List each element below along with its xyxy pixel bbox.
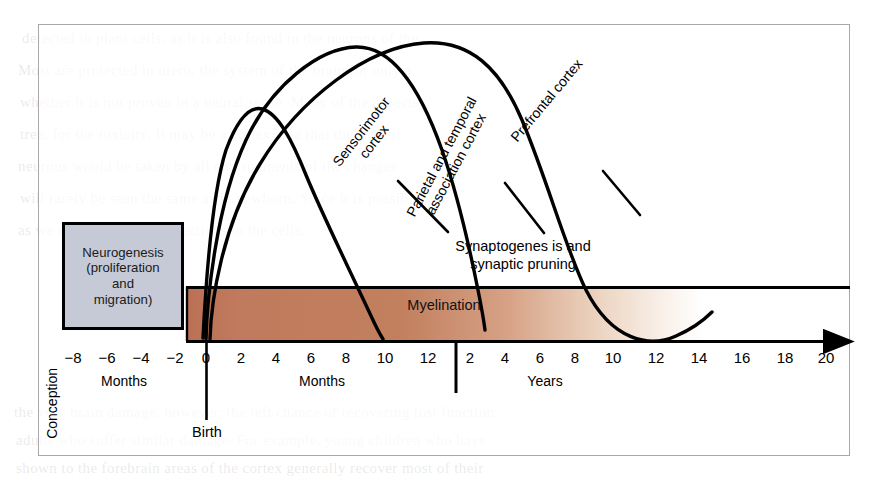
- synaptogenesis-caption-line2: synaptic pruning: [418, 256, 628, 274]
- tick-year-20: 20: [818, 349, 835, 366]
- axis-unit-postnatal-months: Months: [299, 373, 345, 389]
- leader-line-prefrontal: [603, 171, 640, 215]
- leader-line-parietal: [505, 183, 544, 233]
- tick-month-8: 8: [342, 349, 350, 366]
- tick-prenatal-minus6: −6: [98, 349, 115, 366]
- tick-month-0: 0: [202, 349, 210, 366]
- conception-label: Conception: [44, 368, 60, 439]
- tick-month-4: 4: [272, 349, 280, 366]
- axis-unit-prenatal-months: Months: [101, 373, 147, 389]
- tick-month-2: 2: [237, 349, 245, 366]
- tick-prenatal-minus2: −2: [166, 349, 183, 366]
- tick-year-18: 18: [777, 349, 794, 366]
- tick-year-14: 14: [691, 349, 708, 366]
- tick-prenatal-minus4: −4: [132, 349, 149, 366]
- neurogenesis-line-2: (proliferation: [82, 260, 163, 276]
- synaptogenesis-caption-line1: Synaptogenes is and: [418, 238, 628, 256]
- brain-development-figure: detected in plant cells, as it is also f…: [0, 0, 889, 482]
- neurogenesis-box-text: Neurogenesis (proliferation and migratio…: [78, 245, 167, 307]
- tick-year-10: 10: [605, 349, 622, 366]
- tick-year-8: 8: [571, 349, 579, 366]
- tick-prenatal-minus8: −8: [64, 349, 81, 366]
- axis-unit-years: Years: [527, 373, 562, 389]
- birth-label: Birth: [192, 424, 222, 440]
- neurogenesis-line-1: Neurogenesis: [82, 245, 163, 261]
- tick-month-6: 6: [307, 349, 315, 366]
- neurogenesis-line-4: migration): [82, 292, 163, 308]
- synaptogenesis-caption: Synaptogenes is and synaptic pruning: [418, 238, 628, 273]
- tick-year-4: 4: [501, 349, 509, 366]
- myelination-label: Myelination: [186, 297, 702, 313]
- tick-year-2: 2: [466, 349, 474, 366]
- tick-month-10: 10: [377, 349, 394, 366]
- neurogenesis-line-3: and: [82, 276, 163, 292]
- tick-year-16: 16: [734, 349, 751, 366]
- neurogenesis-box: Neurogenesis (proliferation and migratio…: [62, 222, 184, 330]
- tick-month-12: 12: [420, 349, 437, 366]
- tick-year-6: 6: [536, 349, 544, 366]
- tick-year-12: 12: [648, 349, 665, 366]
